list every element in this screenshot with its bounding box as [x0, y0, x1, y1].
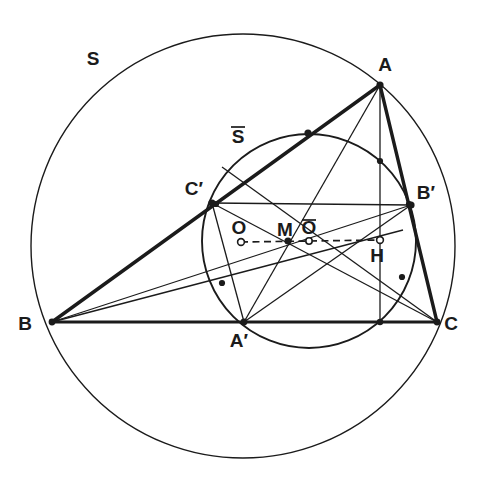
label-A: A — [378, 54, 392, 75]
nine-point-foot-altitude-C — [399, 274, 405, 280]
vertex-C-dot — [434, 319, 441, 326]
circumcircle-S — [31, 34, 455, 458]
circumcenter-O-marker — [238, 239, 245, 246]
label-M: M — [277, 219, 293, 240]
vertex-A-dot — [376, 81, 383, 88]
label-B-prime: B′ — [417, 182, 436, 203]
vertex-B-prime-dot — [407, 201, 414, 208]
label-O: O — [232, 217, 247, 238]
nine-point-midpoint-BC — [241, 319, 248, 326]
vertex-B-dot — [49, 319, 56, 326]
nine-point-foot-altitude-A — [377, 319, 383, 325]
nine-point-foot-altitude-B — [219, 280, 225, 286]
label-C: C — [444, 313, 458, 334]
nine-point-center-O-bar-marker — [306, 238, 312, 244]
label-C-prime: C′ — [185, 178, 204, 199]
label-A-prime: A′ — [230, 330, 249, 351]
geometry-figure: S S A B C A′ B′ C′ M O O H — [0, 0, 482, 479]
label-H: H — [370, 245, 384, 266]
label-S-bar: S — [232, 126, 245, 147]
nine-point-top-intersection — [304, 129, 311, 136]
label-B: B — [18, 313, 32, 334]
label-S: S — [87, 48, 100, 69]
nine-point-euler-point-A — [377, 158, 383, 164]
orthocenter-H-marker — [377, 237, 384, 244]
vertex-C-prime-dot — [208, 199, 215, 206]
diagram-canvas: S S A B C A′ B′ C′ M O O H — [0, 0, 482, 479]
